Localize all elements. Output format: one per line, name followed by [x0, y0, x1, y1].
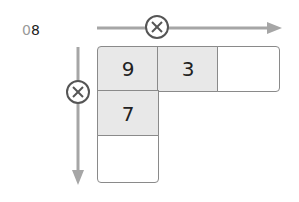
grid-cell-bottom-left[interactable]	[97, 135, 159, 183]
horizontal-multiply-icon	[146, 16, 168, 38]
grid-cell-top-left: 9	[97, 46, 159, 92]
vertical-multiply-icon	[67, 81, 89, 103]
vertical-arrow	[72, 47, 84, 185]
grid-cell-top-right[interactable]	[217, 46, 280, 92]
horizontal-arrow	[97, 22, 282, 34]
grid-cell-middle-left: 7	[97, 90, 159, 137]
grid-cell-top-middle: 3	[157, 46, 219, 92]
